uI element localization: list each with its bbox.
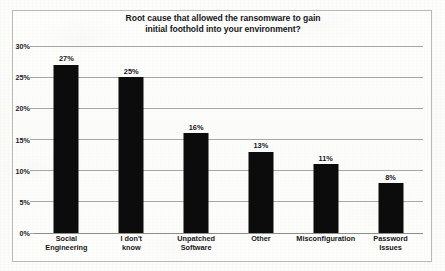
y-axis-label-30%: 30% bbox=[16, 42, 30, 51]
y-axis-label-20%: 20% bbox=[16, 104, 30, 113]
chart-title-line-1: Root cause that allowed the ransomware t… bbox=[13, 13, 433, 24]
bar-password-issues[interactable] bbox=[378, 183, 403, 233]
category-label-line: Misconfiguration bbox=[296, 235, 355, 244]
category-axis: SocialEngineeringI don'tknowUnpatchedSof… bbox=[34, 235, 423, 259]
category-label-password-issues: PasswordIssues bbox=[373, 235, 407, 252]
category-label-i-don-t-know: I don'tknow bbox=[120, 235, 142, 252]
bar-group: 11% bbox=[293, 46, 358, 233]
bar-unpatched-software[interactable] bbox=[184, 133, 209, 233]
bar-value-label: 16% bbox=[189, 123, 204, 132]
bar-value-label: 8% bbox=[385, 173, 396, 182]
category-label-line: Issues bbox=[373, 244, 407, 253]
category-label-unpatched-software: UnpatchedSoftware bbox=[177, 235, 215, 252]
category-label-line: Engineering bbox=[45, 244, 87, 253]
bar-group: 8% bbox=[358, 46, 423, 233]
chart-frame: Root cause that allowed the ransomware t… bbox=[12, 10, 432, 262]
chart-title: Root cause that allowed the ransomware t… bbox=[13, 13, 433, 34]
bar-social-engineering[interactable] bbox=[54, 65, 79, 233]
bar-group: 27% bbox=[34, 46, 99, 233]
category-label-line: know bbox=[120, 244, 142, 253]
y-axis-label-5%: 5% bbox=[20, 197, 30, 206]
y-axis-label-25%: 25% bbox=[16, 73, 30, 82]
category-label-social-engineering: SocialEngineering bbox=[45, 235, 87, 252]
bar-group: 13% bbox=[229, 46, 294, 233]
bar-value-label: 25% bbox=[124, 67, 139, 76]
bar-value-label: 27% bbox=[59, 54, 74, 63]
bar-group: 16% bbox=[164, 46, 229, 233]
bar-other[interactable] bbox=[248, 152, 273, 233]
plot-area: 0%5%10%15%20%25%30%27%25%16%13%11%8% bbox=[34, 46, 423, 233]
bar-i-don-t-know[interactable] bbox=[119, 77, 144, 233]
y-axis-label-10%: 10% bbox=[16, 166, 30, 175]
category-label-misconfiguration: Misconfiguration bbox=[296, 235, 355, 244]
bar-misconfiguration[interactable] bbox=[313, 164, 338, 233]
bar-value-label: 11% bbox=[319, 154, 333, 163]
category-label-line: Other bbox=[251, 235, 270, 244]
y-axis-label-15%: 15% bbox=[16, 135, 30, 144]
category-label-line: Software bbox=[177, 244, 215, 253]
bar-value-label: 13% bbox=[254, 141, 269, 150]
category-label-other: Other bbox=[251, 235, 270, 244]
chart-title-line-2: initial foothold into your environment? bbox=[13, 24, 433, 35]
bar-group: 25% bbox=[99, 46, 164, 233]
y-axis-label-0%: 0% bbox=[20, 229, 30, 238]
